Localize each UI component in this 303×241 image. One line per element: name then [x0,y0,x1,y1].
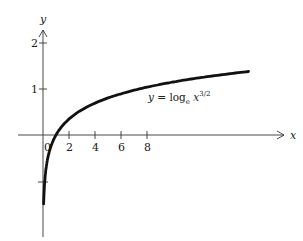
x-axis-label: x [290,129,297,142]
x-tick-label-8: 8 [144,141,151,154]
y-tick-label-1: 1 [31,83,38,96]
x-tick-label-6: 6 [118,141,125,154]
chart-canvas: y x 2 1 0 2 4 6 8 [0,0,303,241]
equation-label: yy = log = loge x3/2 [148,90,211,106]
x-tick-label-4: 4 [92,141,99,154]
equation-base: x [190,91,199,103]
y-axis-label: y [39,13,47,26]
equation-exponent: 3/2 [199,90,210,98]
curve-series [44,72,249,204]
y-tick-label-2: 2 [31,37,38,50]
x-tick-label-2: 2 [66,141,73,154]
